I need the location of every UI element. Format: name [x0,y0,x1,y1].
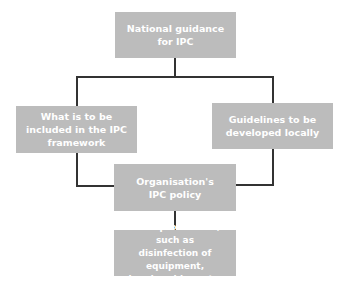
node-organisation-policy: Organisation's IPC policy [114,164,236,211]
node-local-guidelines: Guidelines to be developed locally [212,103,333,149]
node-local-procedures: Local procedures, such as disinfection o… [114,230,236,276]
connector-right-down-to-guidelines [272,76,274,104]
connector-left-down-to-framework [76,76,78,107]
connector-guidelines-to-policy [235,184,274,186]
connector-framework-down [76,153,78,186]
connector-national-down [174,58,176,78]
connector-guidelines-down [272,149,274,186]
connector-top-horizontal [76,76,274,78]
connector-framework-to-policy [76,185,116,187]
node-ipc-framework: What is to be included in the IPC framew… [16,106,137,153]
node-national-guidance: National guidance for IPC [115,12,236,58]
